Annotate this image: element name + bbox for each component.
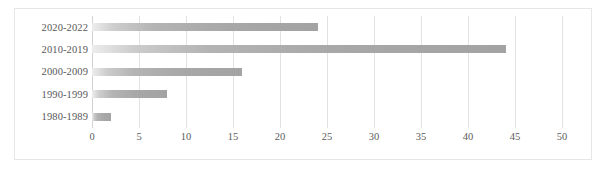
x-tick-label: 45: [510, 131, 521, 142]
x-tick-label: 25: [322, 131, 333, 142]
bar-row: [92, 16, 562, 38]
category-label: 2010-2019: [42, 44, 88, 55]
x-tick-label: 30: [369, 131, 380, 142]
category-label-row: 2020-2022: [22, 16, 88, 38]
category-label: 1990-1999: [42, 89, 88, 100]
category-axis-labels: 2020-20222010-20192000-20091990-19991980…: [22, 16, 88, 128]
category-label: 2020-2022: [42, 22, 88, 33]
bar-row: [92, 83, 562, 105]
category-label-row: 2000-2009: [22, 61, 88, 83]
bar[interactable]: [92, 90, 167, 98]
category-label: 1980-1989: [42, 111, 88, 122]
bar-chart: 2020-20222010-20192000-20091990-19991980…: [0, 0, 610, 171]
x-tick-label: 40: [463, 131, 474, 142]
x-tick-label: 0: [89, 131, 94, 142]
x-tick-label: 50: [557, 131, 568, 142]
bars-container: [92, 16, 562, 128]
x-tick-label: 10: [181, 131, 192, 142]
category-label-row: 1990-1999: [22, 83, 88, 105]
bar-row: [92, 106, 562, 128]
category-label-row: 1980-1989: [22, 106, 88, 128]
bar[interactable]: [92, 113, 111, 121]
bar[interactable]: [92, 68, 242, 76]
bar-row: [92, 38, 562, 60]
bar[interactable]: [92, 23, 318, 31]
bar[interactable]: [92, 45, 506, 53]
category-label: 2000-2009: [42, 66, 88, 77]
x-tick-label: 5: [136, 131, 141, 142]
x-tick-label: 20: [275, 131, 286, 142]
category-label-row: 2010-2019: [22, 38, 88, 60]
x-tick-label: 15: [228, 131, 239, 142]
x-axis-tick-labels: 05101520253035404550: [0, 131, 610, 149]
bar-row: [92, 61, 562, 83]
x-tick-label: 35: [416, 131, 427, 142]
